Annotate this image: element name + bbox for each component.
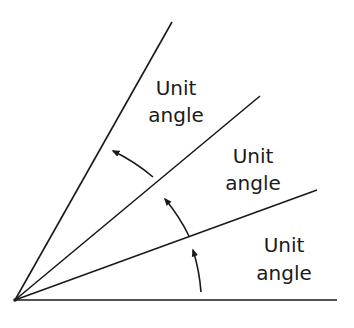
- label-top-line2: angle: [148, 103, 204, 127]
- arc-arrow-3: [113, 151, 153, 177]
- vertex-point: [13, 298, 17, 302]
- arc-arrow-1: [193, 250, 201, 292]
- label-bottom-line2: angle: [256, 261, 312, 285]
- label-middle-line2: angle: [225, 171, 281, 195]
- angle-label-top: Unit angle: [148, 76, 204, 127]
- arc-arrow-2: [165, 199, 189, 236]
- label-top-line1: Unit: [156, 76, 197, 100]
- rays: [15, 22, 337, 300]
- unit-angle-diagram: Unit angle Unit angle Unit angle: [0, 0, 354, 328]
- angle-label-bottom: Unit angle: [256, 233, 312, 285]
- ray-40deg: [15, 96, 260, 300]
- ray-60deg: [15, 22, 172, 300]
- label-middle-line1: Unit: [233, 144, 274, 168]
- label-bottom-line1: Unit: [264, 233, 305, 257]
- arc-arrows: [113, 151, 201, 292]
- angle-label-middle: Unit angle: [225, 144, 281, 195]
